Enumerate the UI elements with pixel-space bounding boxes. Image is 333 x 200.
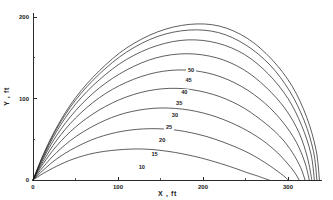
x-tick-label: 0 [31,184,35,190]
axis-titles: X , ftY , ft [3,87,177,198]
curve-label: 15 [151,151,157,157]
y-tick-label: 100 [19,96,30,102]
tick-labels: 01002003000100200 [19,14,294,190]
curve-label: 10 [139,164,145,170]
curve-label: 35 [176,100,182,106]
curve-label: 40 [181,89,187,95]
x-tick-label: 100 [113,184,124,190]
curve-label: 25 [166,124,172,130]
curve-label: 45 [185,77,191,83]
x-axis-title: X , ft [158,190,177,198]
y-tick-label: 0 [26,177,30,183]
x-tick-label: 300 [283,184,294,190]
y-axis-title: Y , ft [3,87,11,106]
curve-label: 20 [159,137,165,143]
curve-label: 30 [172,112,178,118]
x-tick-label: 200 [198,184,209,190]
chart-page: 01002003000100200 101520253035404550 X ,… [0,0,333,200]
y-tick-label: 200 [19,14,30,20]
trajectory-chart: 01002003000100200 101520253035404550 X ,… [0,0,333,200]
curve-label: 50 [188,67,194,73]
